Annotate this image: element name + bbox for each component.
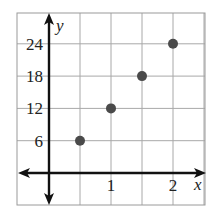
data-point <box>75 136 85 146</box>
data-point <box>137 71 147 81</box>
y-tick-label: 18 <box>26 67 43 86</box>
y-axis-label: y <box>54 16 64 35</box>
y-tick-label: 12 <box>26 99 43 118</box>
data-points <box>75 39 178 146</box>
x-axis-label: x <box>193 175 202 194</box>
data-point <box>106 103 116 113</box>
y-tick-label: 24 <box>26 35 44 54</box>
scatter-chart: 612182412 x y <box>0 0 215 213</box>
data-point <box>168 39 178 49</box>
y-tick-label: 6 <box>35 132 44 151</box>
x-tick-label: 2 <box>169 176 178 195</box>
x-tick-label: 1 <box>107 176 116 195</box>
